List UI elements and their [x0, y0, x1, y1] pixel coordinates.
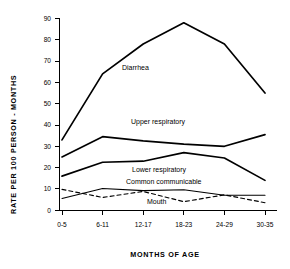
y-tick-label: 0: [47, 207, 51, 214]
y-tick-label: 60: [44, 79, 52, 86]
series-label-lower-respiratory: Lower respiratory: [132, 166, 187, 174]
y-tick-label: 80: [44, 36, 52, 43]
series-line-upper-respiratory: [62, 135, 265, 157]
x-tick-label: 0-5: [57, 221, 67, 228]
series-label-mouth: Mouth: [147, 198, 167, 205]
x-axis-ticks: [62, 211, 265, 216]
x-axis-title: MONTHS OF AGE: [130, 250, 200, 259]
y-axis-title: RATE PER 100 PERSON - MONTHS: [9, 75, 18, 214]
y-axis-ticks: [55, 19, 60, 211]
series-label-diarrhea: Diarrhea: [122, 64, 149, 71]
series-label-upper-respiratory: Upper respiratory: [131, 118, 186, 126]
y-tick-label: 20: [44, 164, 52, 171]
line-chart: RATE PER 100 PERSON - MONTHS MONTHS OF A…: [0, 0, 290, 269]
y-tick-label: 50: [44, 100, 52, 107]
series-label-common-communicable: Common communicable: [126, 178, 202, 185]
y-tick-label: 30: [44, 143, 52, 150]
chart-figure: RATE PER 100 PERSON - MONTHS MONTHS OF A…: [0, 0, 290, 269]
x-tick-label: 18-23: [175, 221, 192, 228]
y-tick-label: 70: [44, 57, 52, 64]
x-tick-label: 12-17: [135, 221, 152, 228]
y-tick-label: 10: [44, 185, 52, 192]
x-axis-tick-labels: 0-5 6-11 12-17 18-23 24-29 30-35: [57, 221, 274, 228]
y-tick-label: 90: [44, 15, 52, 22]
x-tick-label: 24-29: [216, 221, 233, 228]
y-tick-label: 40: [44, 121, 52, 128]
x-tick-label: 30-35: [257, 221, 274, 228]
y-axis-tick-labels: 90 80 70 60 50 40 30 20 10 0: [44, 15, 52, 214]
x-tick-label: 6-11: [96, 221, 109, 228]
